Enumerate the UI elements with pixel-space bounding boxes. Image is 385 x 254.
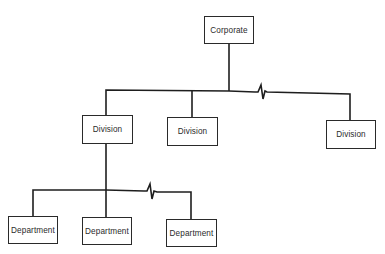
corporate-box: Corporate xyxy=(204,16,254,44)
department-box-1: Department xyxy=(8,216,58,244)
department-label: Department xyxy=(11,226,55,235)
division-label: Division xyxy=(336,130,365,139)
department-box-2: Department xyxy=(82,217,132,245)
division-box-1: Division xyxy=(82,115,133,144)
corporate-label: Corporate xyxy=(210,26,247,35)
department-label: Department xyxy=(170,229,214,238)
division-label: Division xyxy=(93,125,122,134)
division-box-3: Division xyxy=(326,120,376,149)
division-bus-line xyxy=(106,85,350,120)
division-label: Division xyxy=(178,127,207,136)
division-box-2: Division xyxy=(167,117,218,146)
department-box-3: Department xyxy=(166,219,217,247)
department-label: Department xyxy=(85,227,129,236)
department-bus-line xyxy=(33,184,191,219)
